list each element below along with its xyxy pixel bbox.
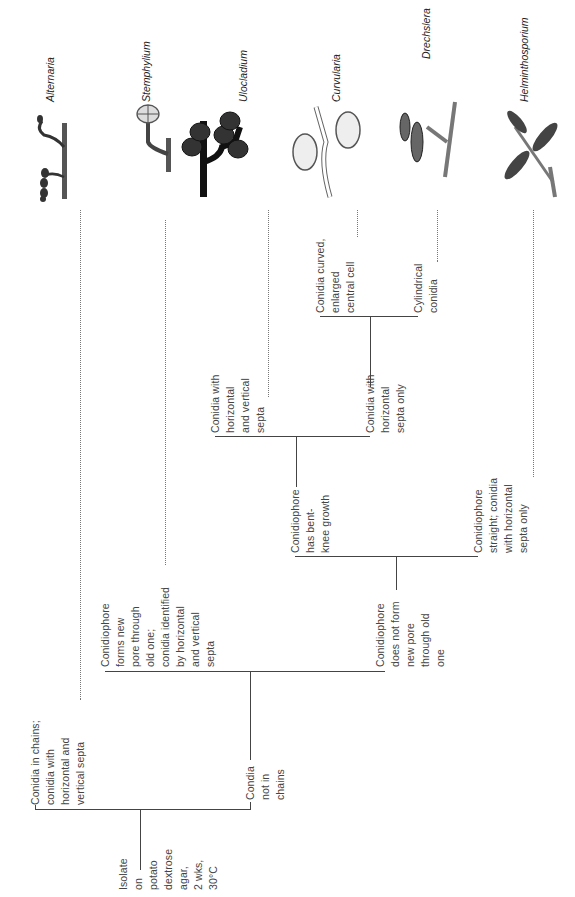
genus-stemphylium: Stemphylium — [140, 41, 152, 102]
dichotomous-key-diagram: Isolate on potato dextrose agar, 2 wks, … — [0, 0, 575, 897]
leader-curvularia — [357, 210, 358, 237]
node-straight: Conidiophore straight; conidia with hori… — [471, 478, 531, 553]
stem-no-new-pore — [396, 557, 397, 590]
leader-alternaria — [80, 210, 81, 700]
leader-helminthosporium — [533, 210, 534, 477]
node-bent-knee: Conidiophore has bent- knee growth — [288, 489, 333, 553]
bracket-level2 — [105, 671, 385, 672]
node-no-new-pore: Conidiophore does not form new pore thro… — [373, 602, 448, 668]
curvularia-illustration-icon — [290, 102, 370, 202]
root-label: Isolate on potato dextrose agar, 2 wks, … — [116, 849, 221, 890]
node-conidia-in-chains: Conidia in chains; conidia with horizont… — [28, 720, 88, 805]
node-conidia-not-in-chains: Condia not in chains — [243, 766, 288, 800]
genus-ulocladium: Ulocladium — [237, 50, 249, 102]
stemphylium-illustration-icon — [128, 102, 178, 192]
drechslera-illustration-icon — [395, 97, 465, 197]
bracket-level5 — [320, 316, 418, 317]
genus-alternaria: Alternaria — [44, 57, 56, 102]
stem-not-chains — [250, 672, 251, 760]
alternaria-illustration-icon — [30, 107, 80, 207]
node-cylindrical: Cylindrical conidia — [411, 263, 441, 313]
leader-drechslera — [437, 210, 438, 262]
root-stem — [140, 810, 141, 870]
bracket-level4 — [215, 436, 370, 437]
bracket-level1 — [35, 809, 250, 810]
genus-helminthosporium: Helminthosporium — [518, 17, 530, 102]
node-horiz-vert-septa: Conidia with horizontal and vertical sep… — [208, 375, 268, 433]
ulocladium-illustration-icon — [180, 107, 250, 207]
stem-horiz-only — [370, 317, 371, 387]
bracket-level3 — [295, 556, 478, 557]
leader-stemphylium — [165, 220, 166, 565]
node-curved-enlarged: Conidia curved, enlarged central cell — [313, 239, 358, 313]
tick — [35, 805, 36, 810]
leader-ulocladium — [268, 210, 269, 397]
genus-curvularia: Curvularia — [330, 54, 342, 102]
genus-drechslera: Drechslera — [420, 8, 432, 59]
helminthosporium-illustration-icon — [495, 107, 565, 207]
stem-bent-knee — [296, 437, 297, 487]
tick — [250, 802, 251, 810]
node-forms-new-pore: Conidiophore forms new pore through old … — [98, 587, 218, 667]
